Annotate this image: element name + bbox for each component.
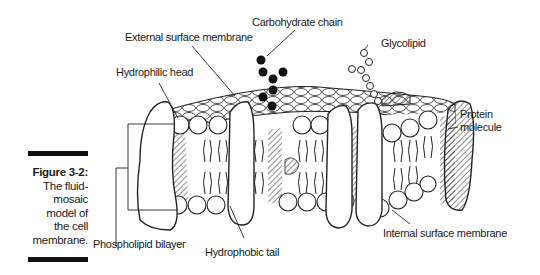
label-internal-surface-membrane: Internal surface membrane [383, 227, 507, 240]
label-protein-molecule-1: Protein [460, 108, 493, 121]
label-hydrophobic-tail: Hydrophobic tail [205, 246, 279, 259]
label-protein-molecule-2: molecule [460, 121, 502, 134]
label-glycolipid: Glycolipid [381, 37, 426, 50]
label-carbohydrate-chain: Carbohydrate chain [252, 16, 343, 29]
label-hydrophilic-head: Hydrophilic head [116, 66, 193, 79]
label-external-surface-membrane: External surface membrane [125, 31, 253, 44]
label-phospholipid-bilayer: Phospholipid bilayer [93, 238, 185, 251]
